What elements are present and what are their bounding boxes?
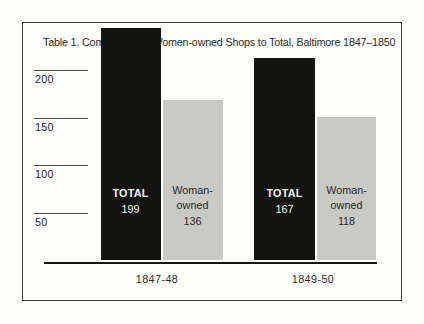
y-tick-100: 100 bbox=[34, 165, 88, 180]
bar-label-woman-line2: owned bbox=[331, 198, 363, 214]
bar-woman-owned-1849-50: Woman- owned 118 bbox=[317, 117, 376, 260]
y-tick-200: 200 bbox=[34, 70, 88, 85]
bar-value-total-1849-50: 167 bbox=[275, 202, 293, 218]
chart-frame: Table 1. Comparison of Women-owned Shops… bbox=[22, 22, 402, 301]
bar-value-total-1847-48: 199 bbox=[121, 202, 139, 218]
y-tick-label-50: 50 bbox=[34, 216, 88, 228]
bar-label-woman-line1: Woman- bbox=[172, 183, 213, 199]
bar-label-total: TOTAL bbox=[113, 186, 149, 202]
bar-total-1849-50: TOTAL 167 bbox=[254, 58, 315, 260]
bar-value-woman-1849-50: 118 bbox=[338, 214, 355, 230]
y-tick-line-100 bbox=[34, 165, 88, 166]
y-tick-label-200: 200 bbox=[34, 73, 88, 85]
y-tick-line-50 bbox=[34, 213, 88, 214]
bar-total-1847-48: TOTAL 199 bbox=[101, 28, 161, 260]
bar-label-woman-line1: Woman- bbox=[326, 183, 367, 199]
bar-label-total: TOTAL bbox=[267, 186, 303, 202]
y-tick-50: 50 bbox=[34, 213, 88, 228]
x-label-1849-50: 1849-50 bbox=[252, 273, 374, 285]
chart-title: Table 1. Comparison of Women-owned Shops… bbox=[43, 36, 395, 48]
bar-woman-owned-1847-48: Woman- owned 136 bbox=[163, 100, 223, 260]
x-label-1847-48: 1847-48 bbox=[96, 273, 218, 285]
x-axis-line bbox=[44, 262, 377, 265]
y-tick-line-200 bbox=[34, 70, 88, 71]
y-tick-label-100: 100 bbox=[34, 168, 88, 180]
bar-value-woman-1847-48: 136 bbox=[183, 214, 201, 230]
y-tick-150: 150 bbox=[34, 118, 88, 133]
y-tick-line-150 bbox=[34, 118, 88, 119]
bar-label-woman-line2: owned bbox=[177, 198, 209, 214]
y-tick-label-150: 150 bbox=[34, 121, 88, 133]
